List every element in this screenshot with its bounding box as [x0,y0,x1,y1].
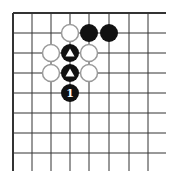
black-stone [61,44,79,62]
go-board: 1 [0,0,180,187]
white-stone [81,65,98,82]
black-stone [100,24,118,42]
black-stone [80,24,98,42]
white-stone [43,65,60,82]
move-number-label: 1 [66,87,74,100]
black-stone [61,64,79,82]
white-stone [43,45,60,62]
white-stone [81,45,98,62]
black-stone: 1 [61,84,79,102]
stones-layer: 1 [43,24,119,102]
white-stone [62,25,79,42]
